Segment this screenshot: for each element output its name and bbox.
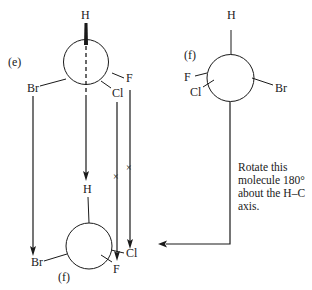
br-bond — [252, 78, 273, 85]
molecule-f-rotated-f: F — [113, 262, 120, 276]
f-bond — [195, 73, 207, 76]
molecule-e-label: (e) — [8, 55, 21, 69]
molecule-f-rotated-circle — [66, 223, 112, 269]
molecule-e: (e) H Br F Cl — [8, 8, 133, 100]
molecule-f-original: (f) H F Cl Br — [184, 8, 287, 102]
newman-projection-diagram: (e) H Br F Cl (f) H F Cl Br — [0, 0, 312, 290]
molecule-e-f: F — [126, 71, 133, 85]
instruction-line-2: molecule 180° — [238, 174, 312, 187]
molecule-f-label: (f) — [184, 48, 196, 62]
molecule-f-f: F — [184, 70, 191, 84]
molecule-f-rotated-h: H — [83, 182, 92, 196]
h-bond — [88, 197, 89, 223]
instruction-line-3: about the H–C — [238, 187, 312, 200]
molecule-e-cl: Cl — [112, 86, 124, 100]
molecule-f-rotated-br: Br — [31, 255, 43, 269]
cross-mark-cl: × — [126, 162, 132, 173]
molecule-e-h: H — [81, 8, 90, 22]
cross-mark-f: × — [113, 171, 119, 182]
mapping-arrows: × × — [30, 90, 133, 261]
molecule-f-br: Br — [275, 81, 287, 95]
molecule-e-br: Br — [27, 81, 39, 95]
br-bond — [40, 79, 66, 86]
molecule-f-rotated-label: (f) — [58, 270, 70, 284]
rotation-instruction: Rotate this molecule 180° about the H–C … — [238, 161, 312, 213]
molecule-f-rotated-cl: Cl — [126, 246, 138, 260]
rotation-arrowhead — [158, 241, 167, 248]
molecule-f-rotated: H Br F Cl (f) — [31, 182, 138, 284]
cl-bond — [101, 81, 111, 88]
molecule-f-circle — [207, 55, 254, 102]
wedge-bond-h — [84, 23, 88, 45]
rotation-arrow — [166, 102, 230, 244]
br-bond — [44, 254, 67, 261]
f-bond — [112, 73, 124, 78]
instruction-line-4: axis. — [238, 200, 312, 213]
instruction-line-1: Rotate this — [238, 161, 312, 174]
molecule-f-h: H — [227, 8, 236, 22]
molecule-f-cl: Cl — [190, 85, 202, 99]
